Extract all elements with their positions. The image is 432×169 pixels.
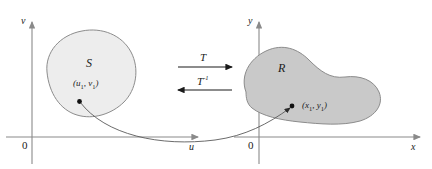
region-s-shape — [47, 30, 136, 117]
inverse-map-exponent: -1 — [203, 74, 208, 81]
point-x1y1-label: (x1, y1) — [302, 101, 327, 112]
point-u1v1-close: ) — [96, 78, 99, 88]
region-s-label: S — [86, 57, 92, 69]
uv-origin-label: 0 — [22, 140, 28, 151]
point-x1y1-open: (x — [302, 100, 309, 110]
point-u1v1-label: (u1, v1) — [73, 79, 99, 90]
point-x1y1-close: ) — [324, 100, 327, 110]
region-r-shape — [244, 47, 380, 124]
point-x1y1-marker — [290, 104, 295, 109]
figure-canvas: v u 0 S (u1, v1) y x 0 R (x1, y1) T T-1 — [0, 0, 432, 169]
forward-map-label: T — [200, 52, 206, 63]
inverse-map-label: T-1 — [197, 75, 209, 87]
region-r-label: R — [278, 62, 285, 74]
y-axis-label: y — [248, 16, 252, 26]
point-x1y1-sep: , y — [312, 100, 321, 110]
point-u1v1-marker — [77, 99, 82, 104]
xy-origin-label: 0 — [248, 140, 254, 151]
x-axis-label: x — [411, 142, 415, 152]
point-u1v1-open: (u — [73, 78, 81, 88]
v-axis-label: v — [21, 16, 25, 26]
u-axis-label: u — [189, 142, 194, 152]
point-u1v1-sep: , v — [84, 78, 93, 88]
